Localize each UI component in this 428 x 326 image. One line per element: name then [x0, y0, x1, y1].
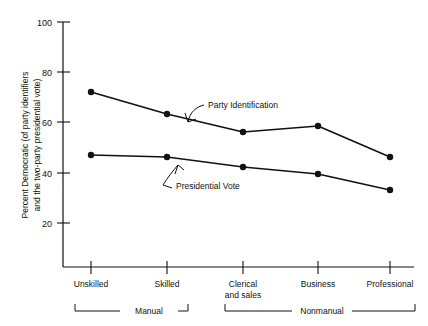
data-point-party-identification-skilled [164, 111, 170, 117]
data-point-presidential-vote-skilled [164, 154, 170, 160]
annotation-label-party-identification: Party Identification [208, 100, 278, 110]
data-point-party-identification-professional [387, 154, 393, 160]
x-label-clerical: Clerical [229, 279, 257, 289]
data-point-presidential-vote-professional [387, 187, 393, 193]
x-label-unskilled: Unskilled [74, 279, 109, 289]
data-point-party-identification-clerical-and-sales [240, 129, 246, 135]
y-axis-label-line2: and the two-party presidential vote) [32, 78, 42, 211]
data-point-presidential-vote-clerical-and-sales [240, 164, 246, 170]
annotation-presidential-vote: Presidential Vote [163, 165, 240, 191]
y-axis-label-line1: Percent Democratic (of party identifiers [20, 72, 30, 219]
line-chart: 100 80 60 40 20 Percent Democratic (of p… [0, 0, 428, 326]
x-axis-tick-labels: Unskilled Skilled Clerical and sales Bus… [74, 279, 414, 300]
annotation-party-identification: Party Identification [185, 100, 278, 122]
data-point-presidential-vote-unskilled [88, 152, 94, 158]
x-label-professional: Professional [367, 279, 414, 289]
chart-figure: 100 80 60 40 20 Percent Democratic (of p… [0, 0, 428, 326]
data-point-party-identification-unskilled [88, 89, 94, 95]
x-label-business: Business [301, 279, 336, 289]
group-label-nonmanual: Nonmanual [300, 306, 344, 316]
y-axis-label: Percent Democratic (of party identifiers… [20, 72, 42, 219]
group-bracket-manual: Manual [75, 304, 188, 316]
group-bracket-nonmanual: Nonmanual [225, 304, 415, 316]
x-label-and-sales: and sales [225, 290, 261, 300]
y-tick-label-20: 20 [42, 219, 52, 229]
group-label-manual: Manual [135, 306, 163, 316]
annotation-label-presidential-vote: Presidential Vote [176, 181, 240, 191]
series-presidential-vote [88, 152, 393, 193]
y-tick-label-100: 100 [37, 18, 52, 28]
y-tick-label-60: 60 [42, 118, 52, 128]
data-point-party-identification-business [315, 123, 321, 129]
y-tick-label-40: 40 [42, 169, 52, 179]
x-label-skilled: Skilled [154, 279, 179, 289]
data-point-presidential-vote-business [315, 171, 321, 177]
y-tick-label-80: 80 [42, 68, 52, 78]
series-line-presidential-vote [91, 155, 390, 190]
